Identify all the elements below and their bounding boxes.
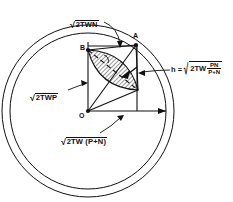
- point-dot-o: [86, 109, 90, 113]
- h-equation-radicand: 2TWPNP+N: [189, 61, 222, 76]
- leader-line-top: [104, 22, 120, 44]
- label-sqrt-2twn: √2TWN: [70, 14, 99, 30]
- leader-arrowhead-right: [138, 70, 145, 76]
- label-sqrt-2twp: √2TWP: [30, 87, 58, 103]
- point-label-a: A: [133, 32, 138, 39]
- h-equation-denominator: P+N: [207, 68, 221, 75]
- point-label-o: O: [79, 112, 84, 119]
- point-dot-b: [86, 48, 90, 52]
- radical-body-top: 2TWN: [75, 20, 99, 29]
- leader-line-right: [142, 70, 170, 72]
- point-label-b: B: [80, 44, 85, 51]
- h-equation-lhs: h =: [171, 65, 182, 74]
- h-equation-radical-body: 2TW: [190, 64, 206, 73]
- label-sqrt-2tw-p-plus-n: √2TW (P+N): [61, 131, 107, 147]
- h-equation-radical-sign: √: [184, 65, 189, 72]
- radical-body-left: 2TWP: [35, 93, 59, 102]
- leader-line-left: [68, 84, 84, 90]
- point-dot-a: [134, 43, 138, 47]
- radical-body-bottom: 2TW (P+N): [66, 137, 108, 146]
- label-h-equation: h =√2TWPNP+N: [171, 62, 222, 77]
- h-equation-fraction: PNP+N: [207, 62, 221, 76]
- leader-arrowhead-left: [81, 80, 88, 86]
